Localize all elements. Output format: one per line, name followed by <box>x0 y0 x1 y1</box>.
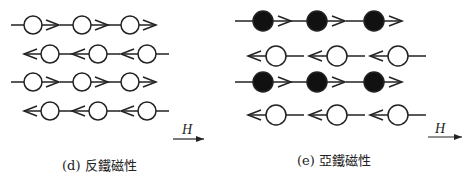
spin-right-arrow-icon <box>235 72 291 92</box>
spin-right-arrow-icon <box>289 72 345 92</box>
field-label: H <box>435 121 445 137</box>
spin-row <box>248 46 426 66</box>
spin-right-arrow-icon <box>289 11 345 31</box>
spin-row <box>248 105 426 125</box>
spin-right-arrow-icon <box>60 73 108 91</box>
spin-right-arrow-icon <box>108 73 156 91</box>
spin-left-arrow-icon <box>309 46 365 66</box>
spin-left-arrow-icon <box>24 102 72 120</box>
spin-right-arrow-icon <box>11 16 59 34</box>
spin-left-arrow-icon <box>72 45 120 63</box>
field-label: H <box>182 122 192 138</box>
spin-left-arrow-icon <box>121 45 169 63</box>
caption-antiferromagnetic: (d) 反鐵磁性 <box>62 155 137 174</box>
spin-row <box>11 16 156 34</box>
spin-row <box>24 102 169 120</box>
spin-right-arrow-icon <box>235 11 291 31</box>
spin-right-arrow-icon <box>346 11 402 31</box>
spin-right-arrow-icon <box>60 16 108 34</box>
antiferromagnetic-spin-diagram <box>0 0 233 179</box>
caption-ferrimagnetic: (e) 亞鐵磁性 <box>297 150 371 169</box>
spin-left-arrow-icon <box>248 46 304 66</box>
spin-right-arrow-icon <box>11 73 59 91</box>
spin-left-arrow-icon <box>24 45 72 63</box>
spin-row <box>235 72 402 92</box>
spin-left-arrow-icon <box>370 105 426 125</box>
ferrimagnetic-panel: H (e) 亞鐵磁性 <box>233 0 467 179</box>
spin-right-arrow-icon <box>108 16 156 34</box>
spin-left-arrow-icon <box>248 105 304 125</box>
antiferromagnetic-panel: H (d) 反鐵磁性 <box>0 0 233 179</box>
spin-row <box>11 73 156 91</box>
spin-row <box>24 45 169 63</box>
spin-left-arrow-icon <box>309 105 365 125</box>
spin-left-arrow-icon <box>121 102 169 120</box>
spin-right-arrow-icon <box>346 72 402 92</box>
spin-left-arrow-icon <box>72 102 120 120</box>
spin-left-arrow-icon <box>370 46 426 66</box>
spin-row <box>235 11 402 31</box>
